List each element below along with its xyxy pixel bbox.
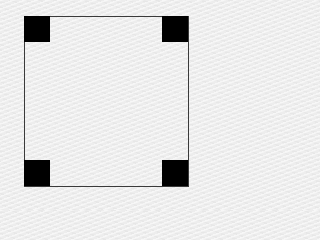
corner-marker-top-right — [162, 16, 188, 42]
corner-marker-top-left — [24, 16, 50, 42]
corner-marker-bottom-right — [162, 160, 188, 186]
corner-marker-bottom-left — [24, 160, 50, 186]
